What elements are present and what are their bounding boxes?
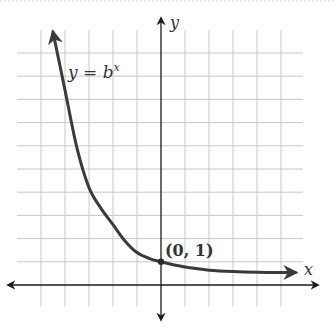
function-label: y = bx bbox=[67, 61, 121, 82]
point-0-1-marker bbox=[158, 259, 164, 265]
x-axis-label: x bbox=[304, 260, 313, 279]
graph-canvas: y = bx (0, 1) x y bbox=[0, 0, 335, 326]
point-label: (0, 1) bbox=[165, 241, 214, 260]
graph-figure: y = bx (0, 1) x y bbox=[0, 0, 335, 326]
y-axis-label: y bbox=[169, 13, 180, 32]
